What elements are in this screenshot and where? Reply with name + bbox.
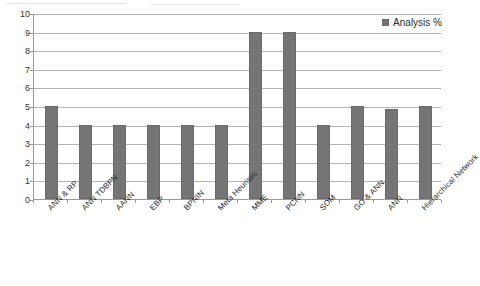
gridline (34, 144, 441, 145)
x-axis-tick-mark (271, 200, 272, 203)
bar (317, 125, 330, 199)
y-axis-tick-label: 4 (4, 122, 30, 131)
bar (215, 125, 228, 199)
bar (113, 125, 126, 199)
x-axis-tick-mark (203, 200, 204, 203)
x-axis-tick-mark (101, 200, 102, 203)
bar (351, 106, 364, 199)
gridline (34, 14, 441, 15)
y-axis-tick-label: 8 (4, 47, 30, 56)
gridline (34, 181, 441, 182)
x-axis-tick-mark (441, 200, 442, 203)
y-axis-tick-label: 3 (4, 140, 30, 149)
y-axis-tick-label: 5 (4, 103, 30, 112)
y-axis-tick-label: 2 (4, 159, 30, 168)
y-axis-tick-label: 10 (4, 10, 30, 19)
bar (45, 106, 58, 199)
gridline (34, 107, 441, 108)
y-axis-tick-label: 1 (4, 177, 30, 186)
y-axis-tick-label: 9 (4, 29, 30, 38)
x-axis-tick-mark (169, 200, 170, 203)
legend-swatch-icon (382, 19, 389, 26)
gridline (34, 70, 441, 71)
bar (385, 109, 398, 199)
bar (147, 125, 160, 199)
x-axis-tick-mark (305, 200, 306, 203)
bar (249, 32, 262, 199)
plot-area (33, 14, 441, 200)
bar (283, 32, 296, 199)
y-axis-tick-label: 6 (4, 84, 30, 93)
y-axis: 109876543210 (0, 14, 30, 200)
gridline (34, 163, 441, 164)
x-axis-tick-mark (373, 200, 374, 203)
legend-label: Analysis % (393, 17, 442, 28)
x-axis-tick-mark (339, 200, 340, 203)
x-axis-tick-mark (407, 200, 408, 203)
gridline (34, 33, 441, 34)
bar (419, 106, 432, 199)
gridline (34, 51, 441, 52)
bar (79, 125, 92, 199)
scan-artifact (6, 3, 126, 4)
scan-artifact-secondary (150, 4, 240, 5)
bar (181, 125, 194, 199)
x-axis-tick-mark (67, 200, 68, 203)
x-axis-tick-mark (33, 200, 34, 203)
x-axis-tick-mark (135, 200, 136, 203)
gridline (34, 88, 441, 89)
y-axis-tick-label: 7 (4, 66, 30, 75)
chart-legend: Analysis % (382, 17, 442, 28)
gridline (34, 126, 441, 127)
x-axis-tick-mark (237, 200, 238, 203)
y-axis-tick-label: 0 (4, 196, 30, 205)
